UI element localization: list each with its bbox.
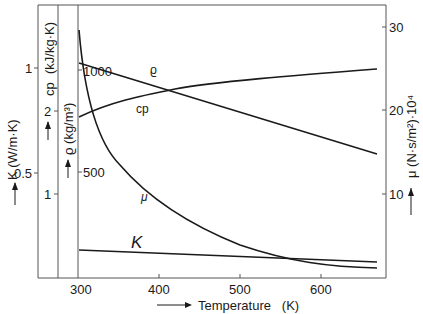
rho-curve (79, 63, 377, 154)
x-tick-400: 400 (148, 282, 170, 297)
cp-curve-label: cp (136, 102, 149, 116)
mu-tick-20: 20 (389, 103, 403, 118)
cp-axis-label: cp (kJ/kg·K) (42, 22, 57, 96)
chart-canvas: 300 400 500 600 Temperature (K) 1 0.5 K … (0, 0, 423, 314)
svg-text:cp: cp (42, 82, 57, 96)
cp-tick-1: 1 (44, 187, 51, 202)
k-curve-label: K (131, 233, 143, 252)
x-tick-300: 300 (70, 282, 92, 297)
mu-axis-label: μ (N·s/m²)·10⁴ (404, 95, 419, 178)
rho-tick-500: 500 (83, 165, 105, 180)
x-axis-label: Temperature (K) (198, 298, 299, 313)
cp-tick-2: 2 (44, 104, 51, 119)
rho-axis-label: ϱ (kg/m³) (61, 103, 76, 155)
mu-curve-label: μ (140, 190, 148, 204)
mu-curve (79, 30, 377, 268)
mu-tick-30: 30 (389, 20, 403, 35)
k-axis-label: K (W/m·K) (5, 119, 20, 180)
x-tick-600: 600 (310, 282, 332, 297)
arrow-up-icon (12, 182, 18, 190)
arrow-up-icon (45, 121, 51, 129)
k-tick-1: 1 (25, 61, 32, 76)
arrow-up-icon (65, 159, 71, 167)
x-tick-500: 500 (229, 282, 251, 297)
k-curve (79, 250, 377, 262)
rho-curve-label: ϱ (150, 63, 157, 77)
arrow-up-icon (408, 188, 414, 196)
svg-text:(kJ/kg·K): (kJ/kg·K) (42, 22, 57, 74)
arrow-right-icon (185, 302, 192, 308)
mu-tick-10: 10 (389, 187, 403, 202)
